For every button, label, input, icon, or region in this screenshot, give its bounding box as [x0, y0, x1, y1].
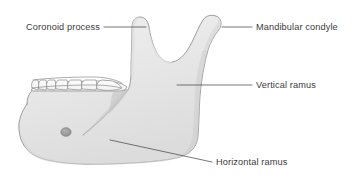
anatomical-figure: Coronoid process Mandibular condyle Vert… [0, 0, 361, 178]
label-coronoid-process: Coronoid process [26, 22, 100, 32]
mental-foramen [61, 128, 71, 137]
tooth-3 [47, 80, 56, 90]
tooth-1 [32, 80, 39, 90]
teeth-row [31, 77, 127, 91]
tooth-2 [39, 80, 47, 90]
label-horizontal-ramus: Horizontal ramus [216, 157, 288, 167]
label-vertical-ramus: Vertical ramus [256, 80, 316, 90]
tooth-4 [56, 80, 68, 90]
mandible-diagram-svg: Coronoid process Mandibular condyle Vert… [0, 0, 361, 178]
label-mandibular-condyle: Mandibular condyle [256, 22, 338, 32]
